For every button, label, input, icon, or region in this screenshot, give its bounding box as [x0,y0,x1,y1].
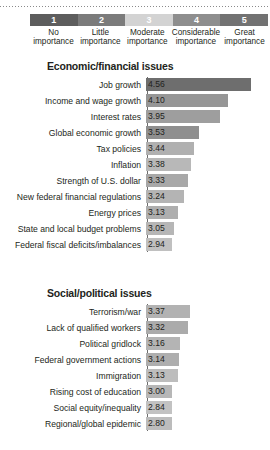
bar-row: Rising cost of education3.00 [0,384,270,399]
bar-category-label: Political gridlock [0,339,145,349]
bar-value-label: 3.24 [146,192,165,201]
legend-block-3: 3 [125,14,173,26]
bar-value-label: 3.13 [146,371,165,380]
bar-rows: Terrorism/war3.37Lack of qualified worke… [0,304,270,431]
bar-row: Job growth4.56 [0,77,270,92]
legend-block-4: 4 [173,14,221,26]
legend-label-line1: Little [78,28,123,37]
bar-track: 3.05 [145,222,270,235]
legend-label-1: Noimportance [30,28,77,47]
bar-track: 3.14 [145,353,270,366]
bar-row: Energy prices3.13 [0,205,270,220]
bar-value-label: 4.56 [146,80,165,89]
bar-category-label: Regional/global epidemic [0,419,145,429]
legend-label-2: Littleimportance [77,28,124,47]
bar-track: 3.38 [145,158,270,171]
bar-track: 3.44 [145,142,270,155]
bar-row: Tax policies3.44 [0,141,270,156]
importance-scale-legend: 12345 NoimportanceLittleimportanceModera… [30,14,268,47]
bar: 3.44 [146,142,194,155]
legend-label-line1: No [31,28,76,37]
bar-track: 4.10 [145,94,270,107]
bar-row: Social equity/inequality2.84 [0,400,270,415]
bar-value-label: 3.38 [146,160,165,169]
bar: 3.13 [146,369,178,382]
bar-track: 3.13 [145,206,270,219]
bar-value-label: 3.00 [146,387,165,396]
section-title: Social/political issues [47,287,270,299]
bar-row: Political gridlock3.16 [0,336,270,351]
legend-block-5: 5 [220,14,268,26]
legend-label-line2: importance [222,37,267,46]
bar-value-label: 3.14 [146,355,165,364]
bar: 3.00 [146,385,172,398]
bar-value-label: 3.44 [146,144,165,153]
bar-value-label: 3.33 [146,176,165,185]
bar-row: Income and wage growth4.10 [0,93,270,108]
bar-row: Lack of qualified workers3.32 [0,320,270,335]
bar-row: Terrorism/war3.37 [0,304,270,319]
bar-track: 3.32 [145,321,270,334]
legend-label-line1: Considerable [172,28,220,37]
legend-block-2: 2 [78,14,126,26]
bar-track: 3.33 [145,174,270,187]
bar-category-label: Interest rates [0,112,145,122]
bar: 3.24 [146,190,184,203]
bar: 2.80 [146,417,172,430]
bar-row: State and local budget problems3.05 [0,221,270,236]
chart-section-economic: Economic/financial issuesJob growth4.56I… [0,60,270,253]
bar: 2.84 [146,401,172,414]
bar-track: 3.24 [145,190,270,203]
bar-row: Federal fiscal deficits/imbalances2.94 [0,237,270,252]
bar: 3.37 [146,305,190,318]
chart-section-social: Social/political issuesTerrorism/war3.37… [0,287,270,432]
bar-value-label: 2.84 [146,403,165,412]
bar-value-label: 2.94 [146,240,165,249]
bar-category-label: Lack of qualified workers [0,323,145,333]
bar: 3.38 [146,158,191,171]
legend-label-3: Moderateimportance [124,28,171,47]
bar-track: 2.84 [145,401,270,414]
bar-track: 3.95 [145,110,270,123]
legend-label-line1: Great [222,28,267,37]
legend-label-4: Considerableimportance [171,28,221,47]
bar-row: Inflation3.38 [0,157,270,172]
bar-category-label: New federal financial regulations [0,192,145,202]
bar-category-label: Income and wage growth [0,96,145,106]
bar-category-label: Job growth [0,80,145,90]
bar-row: Global economic growth3.53 [0,125,270,140]
bar-value-label: 4.10 [146,96,165,105]
bar-category-label: Immigration [0,371,145,381]
bar: 3.16 [146,337,180,350]
legend-label-row: NoimportanceLittleimportanceModerateimpo… [30,28,268,47]
bar-category-label: State and local budget problems [0,224,145,234]
bar-value-label: 3.16 [146,339,165,348]
legend-label-line2: importance [125,37,170,46]
legend-label-line2: importance [31,37,76,46]
bar-track: 2.80 [145,417,270,430]
bar-value-label: 3.32 [146,323,165,332]
legend-label-line1: Moderate [125,28,170,37]
bar-value-label: 2.80 [146,419,165,428]
bar: 2.94 [146,238,172,251]
bar-row: Federal government actions3.14 [0,352,270,367]
bar-value-label: 3.05 [146,224,165,233]
legend-label-line2: importance [78,37,123,46]
bar-value-label: 3.37 [146,307,165,316]
bar-category-label: Tax policies [0,144,145,154]
bar-track: 2.94 [145,238,270,251]
legend-block-row: 12345 [30,14,268,26]
bar: 4.10 [146,94,228,107]
bar-row: Regional/global epidemic2.80 [0,416,270,431]
bar: 3.53 [146,126,199,139]
top-divider [0,6,270,7]
bar-rows: Job growth4.56Income and wage growth4.10… [0,77,270,252]
bar-track: 4.56 [145,78,270,91]
legend-block-1: 1 [30,14,78,26]
bar-category-label: Energy prices [0,208,145,218]
bar-row: Strength of U.S. dollar3.33 [0,173,270,188]
bar-category-label: Social equity/inequality [0,403,145,413]
bar-row: New federal financial regulations3.24 [0,189,270,204]
bar-value-label: 3.95 [146,112,165,121]
bar: 3.33 [146,174,188,187]
